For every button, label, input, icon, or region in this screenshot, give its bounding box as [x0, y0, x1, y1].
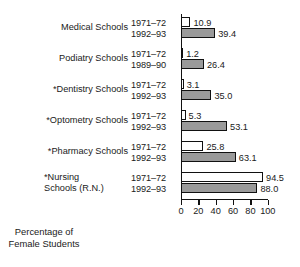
bar: [181, 90, 211, 100]
bar-value-label: 3.1: [187, 80, 200, 90]
x-axis-tick: [181, 200, 182, 205]
bar-value-label: 94.5: [266, 173, 284, 183]
category-label: *Dentistry Schools: [0, 84, 128, 95]
x-axis-title: Percentage of Female Students: [0, 226, 128, 250]
x-axis-tick: [233, 200, 234, 205]
bar: [181, 172, 263, 182]
x-axis-tick: [250, 200, 251, 205]
period-label: 1992–93: [131, 153, 177, 163]
plot-area: 10.939.41.226.43.135.05.353.125.863.194.…: [181, 0, 300, 267]
bar-chart: Medical SchoolsPodiatry Schools*Dentistr…: [0, 0, 300, 267]
bar: [181, 79, 184, 89]
category-label: *Pharmacy Schools: [0, 146, 128, 157]
x-axis-tick-label: 60: [228, 206, 238, 217]
period-label: 1971–72: [131, 142, 177, 152]
period-label: 1992–93: [131, 184, 177, 194]
period-label: 1992–93: [131, 29, 177, 39]
x-axis-tick-label: 100: [260, 206, 275, 217]
period-label: 1971–72: [131, 18, 177, 28]
x-axis-tick-label: 80: [245, 206, 255, 217]
x-axis-tick: [268, 200, 269, 205]
bar-value-label: 63.1: [239, 153, 257, 163]
bar-value-label: 1.2: [186, 49, 199, 59]
category-label: Podiatry Schools: [0, 53, 128, 64]
bar-value-label: 25.8: [206, 142, 224, 152]
period-label: 1989–90: [131, 60, 177, 70]
x-axis-tick: [198, 200, 199, 205]
category-label: *Optometry Schools: [0, 115, 128, 126]
bar: [181, 183, 257, 193]
period-label: 1971–72: [131, 80, 177, 90]
x-axis-tick-label: 40: [211, 206, 221, 217]
period-label-column: 1971–721992–931971–721989–901971–721992–…: [131, 0, 178, 267]
bar: [181, 28, 215, 38]
bar-value-label: 26.4: [207, 60, 225, 70]
x-axis-tick: [216, 200, 217, 205]
bar: [181, 17, 190, 27]
x-axis-tick-label: 0: [178, 206, 183, 217]
bar-value-label: 5.3: [189, 111, 202, 121]
bar-value-label: 88.0: [260, 184, 278, 194]
period-label: 1971–72: [131, 49, 177, 59]
category-label: *Nursing Schools (R.N.): [44, 172, 128, 193]
category-label: Medical Schools: [0, 22, 128, 33]
bar: [181, 152, 236, 162]
period-label: 1992–93: [131, 122, 177, 132]
bar: [181, 141, 203, 151]
bar: [181, 110, 186, 120]
bar: [181, 48, 183, 58]
x-axis-tick-label: 20: [193, 206, 203, 217]
period-label: 1992–93: [131, 91, 177, 101]
bar: [181, 121, 227, 131]
period-label: 1971–72: [131, 111, 177, 121]
bar-value-label: 53.1: [230, 122, 248, 132]
bar-value-label: 35.0: [214, 91, 232, 101]
period-label: 1971–72: [131, 173, 177, 183]
bar-value-label: 39.4: [218, 29, 236, 39]
bar-value-label: 10.9: [193, 18, 211, 28]
x-axis-line: [181, 199, 268, 200]
bar: [181, 59, 204, 69]
